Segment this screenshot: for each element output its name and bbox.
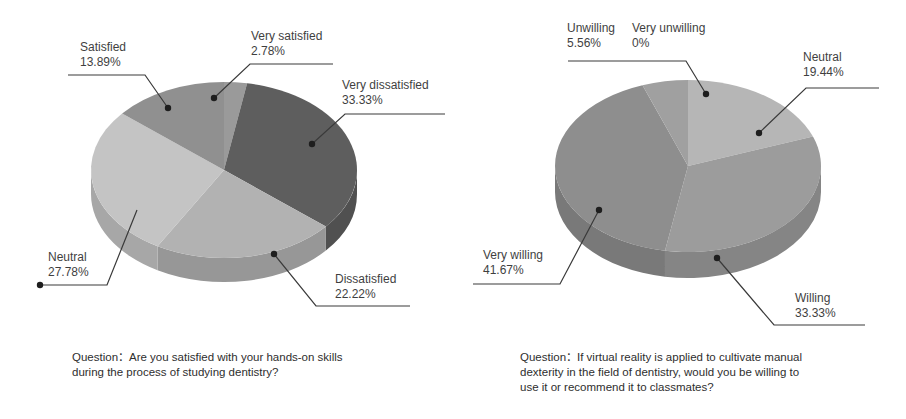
question-line: during the process of studying dentistry… [72,365,343,380]
leader-dot [37,282,43,288]
label-neutral: Neutral 19.44% [803,50,844,80]
label-name: Unwilling [567,21,615,36]
question-line: use it or recommend it to classmates? [520,380,802,395]
leader-dot [703,91,709,97]
leader-dot [309,141,315,147]
label-value: 33.33% [795,306,836,321]
label-very-willing: Very willing 41.67% [483,248,543,278]
label-satisfied: Satisfied 13.89% [80,40,126,70]
label-value: 27.78% [48,265,89,280]
label-name: Neutral [48,250,89,265]
label-value: 19.44% [803,65,844,80]
label-name: Willing [795,291,836,306]
label-name: Very unwilling [632,21,705,36]
leader-dot [756,130,762,136]
question-caption: Question：If virtual reality is applied t… [520,350,802,395]
label-very-unwilling: Very unwilling 0% [632,21,705,51]
label-name: Very satisfied [251,29,322,44]
label-value: 41.67% [483,263,543,278]
label-name: Satisfied [80,40,126,55]
leader-dot [596,207,602,213]
label-willing: Willing 33.33% [795,291,836,321]
label-name: Neutral [803,50,844,65]
label-name: Dissatisfied [335,272,396,287]
leader-dot [271,251,277,257]
label-value: 2.78% [251,44,322,59]
question-line: Question：If virtual reality is applied t… [520,350,802,365]
label-very-dissatisfied: Very dissatisfied 33.33% [342,78,429,108]
leader-dot [714,255,720,261]
label-unwilling: Unwilling 5.56% [567,21,615,51]
question-caption: Question：Are you satisfied with your han… [72,350,343,380]
label-neutral: Neutral 27.78% [48,250,89,280]
label-value: 5.56% [567,36,615,51]
label-value: 33.33% [342,93,429,108]
label-value: 0% [632,36,705,51]
question-line: dexterity in the field of dentistry, wou… [520,365,802,380]
label-very-satisfied: Very satisfied 2.78% [251,29,322,59]
label-dissatisfied: Dissatisfied 22.22% [335,272,396,302]
vr-willingness-pie-chart: Unwilling 5.56% Very unwilling 0% Neutra… [453,0,906,419]
label-value: 22.22% [335,287,396,302]
satisfaction-pie-chart: Satisfied 13.89% Very satisfied 2.78% Ve… [0,0,453,419]
label-name: Very dissatisfied [342,78,429,93]
leader-dot [165,105,171,111]
label-value: 13.89% [80,55,126,70]
question-line: Question：Are you satisfied with your han… [72,350,343,365]
label-name: Very willing [483,248,543,263]
leader-dot [211,95,217,101]
